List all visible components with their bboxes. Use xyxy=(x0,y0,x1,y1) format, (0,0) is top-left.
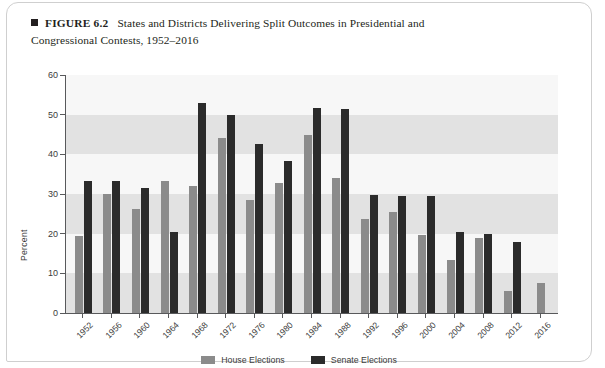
bar-senate-2008[interactable] xyxy=(484,234,492,313)
x-tick-label: 2008 xyxy=(475,320,496,341)
legend-item-house[interactable]: House Elections xyxy=(201,355,285,365)
bar-house-1980[interactable] xyxy=(275,183,283,313)
bar-senate-1964[interactable] xyxy=(170,232,178,313)
x-tick-label: 2004 xyxy=(446,320,467,341)
bar-senate-1980[interactable] xyxy=(284,161,292,313)
x-tick-label: 1964 xyxy=(160,320,181,341)
bar-senate-1984[interactable] xyxy=(313,108,321,313)
x-tick-label: 2000 xyxy=(418,320,439,341)
legend-swatch-house-icon xyxy=(201,356,215,364)
x-tick-mark xyxy=(282,314,283,318)
bar-house-1960[interactable] xyxy=(132,209,140,313)
x-tick-label: 1976 xyxy=(246,320,267,341)
x-tick-label: 1968 xyxy=(189,320,210,341)
bar-house-1968[interactable] xyxy=(189,186,197,313)
x-tick-label: 2012 xyxy=(503,320,524,341)
x-tick-mark xyxy=(111,314,112,318)
bar-group-1996 xyxy=(384,75,413,313)
bar-group-1956 xyxy=(98,75,127,313)
bar-house-2004[interactable] xyxy=(447,260,455,313)
bar-group-1984 xyxy=(298,75,327,313)
bar-house-2012[interactable] xyxy=(504,291,512,313)
x-tick-label: 1988 xyxy=(332,320,353,341)
bar-senate-2012[interactable] xyxy=(513,242,521,313)
y-axis-label: Percent xyxy=(19,229,29,261)
legend-item-senate[interactable]: Senate Elections xyxy=(311,355,397,365)
x-tick-label: 1996 xyxy=(389,320,410,341)
bar-house-1984[interactable] xyxy=(304,135,312,314)
legend-swatch-senate-icon xyxy=(311,356,325,364)
square-bullet-icon xyxy=(31,19,38,26)
bar-senate-1996[interactable] xyxy=(398,196,406,313)
bar-group-2008 xyxy=(469,75,498,313)
bar-senate-2000[interactable] xyxy=(427,196,435,313)
bar-senate-1960[interactable] xyxy=(141,188,149,313)
x-tick-mark xyxy=(425,314,426,318)
legend-label-senate: Senate Elections xyxy=(331,355,397,365)
x-tick-1964: 1964 xyxy=(154,314,183,354)
bar-senate-1972[interactable] xyxy=(227,115,235,313)
bar-group-2004 xyxy=(441,75,470,313)
x-axis: 1952195619601964196819721976198019841988… xyxy=(65,314,557,354)
bar-senate-1988[interactable] xyxy=(341,109,349,313)
x-tick-2016: 2016 xyxy=(526,314,555,354)
bar-house-2000[interactable] xyxy=(418,235,426,313)
x-tick-1968: 1968 xyxy=(182,314,211,354)
x-tick-label: 1992 xyxy=(361,320,382,341)
x-tick-2004: 2004 xyxy=(440,314,469,354)
x-tick-mark xyxy=(483,314,484,318)
bar-group-1952 xyxy=(69,75,98,313)
x-tick-mark xyxy=(511,314,512,318)
bar-house-1956[interactable] xyxy=(103,194,111,313)
x-tick-mark xyxy=(454,314,455,318)
figure-title-line-1: FIGURE 6.2States and Districts Deliverin… xyxy=(31,15,551,32)
figure-label: FIGURE 6.2 xyxy=(45,17,108,29)
bar-senate-1952[interactable] xyxy=(84,181,92,313)
y-tick-label: 20 xyxy=(48,229,58,239)
x-tick-2012: 2012 xyxy=(497,314,526,354)
x-tick-mark xyxy=(82,314,83,318)
chart-legend: House Elections Senate Elections xyxy=(7,355,591,365)
bar-group-1972 xyxy=(212,75,241,313)
bar-senate-2004[interactable] xyxy=(456,232,464,313)
bar-group-1980 xyxy=(269,75,298,313)
y-tick-label: 40 xyxy=(48,149,58,159)
y-axis: Percent 0102030405060 xyxy=(7,75,65,313)
bar-house-1972[interactable] xyxy=(218,138,226,313)
x-tick-mark xyxy=(225,314,226,318)
bar-house-1992[interactable] xyxy=(361,219,369,313)
x-tick-mark xyxy=(311,314,312,318)
bar-house-1996[interactable] xyxy=(389,212,397,313)
bar-house-1988[interactable] xyxy=(332,178,340,313)
bar-senate-1968[interactable] xyxy=(198,103,206,313)
x-tick-1996: 1996 xyxy=(383,314,412,354)
x-tick-1992: 1992 xyxy=(354,314,383,354)
y-tick-label: 30 xyxy=(48,189,58,199)
x-tick-2000: 2000 xyxy=(411,314,440,354)
x-tick-mark xyxy=(254,314,255,318)
x-tick-1984: 1984 xyxy=(297,314,326,354)
bar-house-1976[interactable] xyxy=(246,200,254,313)
bar-group-1964 xyxy=(155,75,184,313)
x-tick-label: 1972 xyxy=(218,320,239,341)
y-tick-label: 60 xyxy=(48,70,58,80)
figure-title-text-1: States and Districts Delivering Split Ou… xyxy=(117,17,424,29)
x-tick-1976: 1976 xyxy=(240,314,269,354)
x-tick-1980: 1980 xyxy=(268,314,297,354)
x-tick-mark xyxy=(368,314,369,318)
bar-senate-1956[interactable] xyxy=(112,181,120,313)
bar-senate-1992[interactable] xyxy=(370,195,378,313)
x-tick-label: 1956 xyxy=(103,320,124,341)
y-tick-label: 50 xyxy=(48,110,58,120)
figure-page: FIGURE 6.2States and Districts Deliverin… xyxy=(6,2,592,362)
bar-house-2008[interactable] xyxy=(475,238,483,313)
bar-house-1952[interactable] xyxy=(75,236,83,313)
x-tick-1972: 1972 xyxy=(211,314,240,354)
x-tick-mark xyxy=(397,314,398,318)
bar-group-1976 xyxy=(241,75,270,313)
bar-house-1964[interactable] xyxy=(161,181,169,313)
bar-group-2016 xyxy=(527,75,556,313)
x-tick-mark xyxy=(540,314,541,318)
bar-house-2016[interactable] xyxy=(537,283,545,313)
bar-senate-1976[interactable] xyxy=(255,144,263,313)
